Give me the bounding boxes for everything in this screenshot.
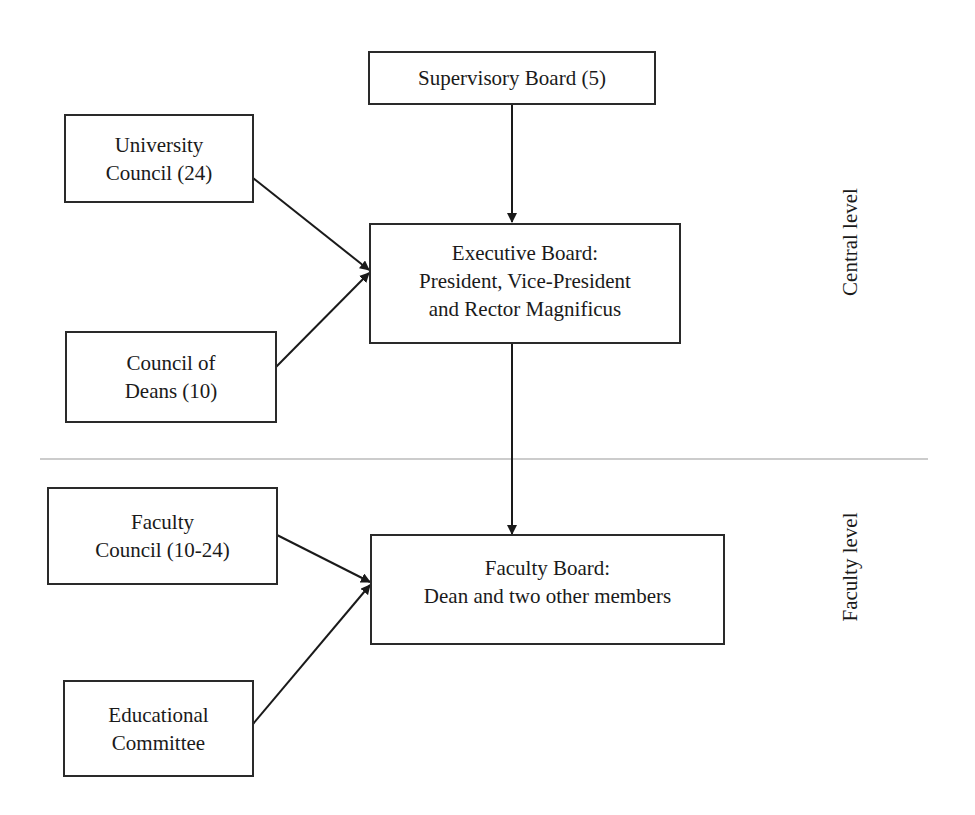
- node-label: Council (10-24): [95, 536, 230, 564]
- node-label: President, Vice-President: [419, 267, 631, 295]
- node-label: Faculty: [131, 508, 194, 536]
- level-label-central: Central level: [838, 182, 866, 302]
- node-faculty-council: Faculty Council (10-24): [47, 487, 278, 585]
- node-label: University: [115, 131, 204, 159]
- node-council-of-deans: Council of Deans (10): [65, 331, 277, 423]
- edge-university-council-to-executive: [253, 178, 369, 270]
- node-label: Dean and two other members: [424, 582, 671, 610]
- node-label: and Rector Magnificus: [429, 295, 621, 323]
- node-label: Council of: [126, 349, 215, 377]
- node-executive-board: Executive Board: President, Vice-Preside…: [369, 223, 681, 344]
- org-diagram: Supervisory Board (5) University Council…: [0, 0, 975, 815]
- node-label: Council (24): [106, 159, 213, 187]
- node-label: Deans (10): [125, 377, 218, 405]
- edge-faculty-council-to-faculty-board: [277, 535, 370, 582]
- node-faculty-board: Faculty Board: Dean and two other member…: [370, 534, 725, 645]
- node-label: Committee: [112, 729, 205, 757]
- node-supervisory-board: Supervisory Board (5): [368, 51, 656, 105]
- edge-council-of-deans-to-executive: [276, 273, 369, 367]
- node-label: Executive Board:: [452, 239, 598, 267]
- level-label-faculty: Faculty level: [838, 507, 866, 627]
- edge-educational-committee-to-faculty-board: [253, 585, 370, 724]
- node-label: Supervisory Board (5): [418, 64, 606, 92]
- node-label: Educational: [108, 701, 208, 729]
- node-educational-committee: Educational Committee: [63, 680, 254, 777]
- node-university-council: University Council (24): [64, 114, 254, 203]
- node-label: Faculty Board:: [485, 554, 610, 582]
